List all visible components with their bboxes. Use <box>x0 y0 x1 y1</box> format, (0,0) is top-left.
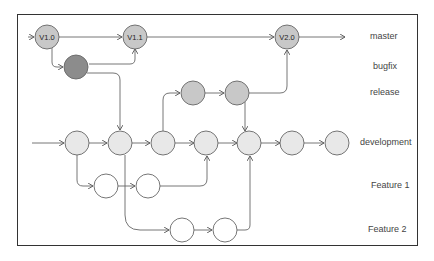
nodes <box>35 25 349 242</box>
commit-node-b1[interactable] <box>64 55 88 79</box>
branch-label-bugfix: bugfix <box>373 61 397 71</box>
branch-label-feature2: Feature 2 <box>368 224 407 234</box>
branch-label-master: master <box>370 31 398 41</box>
commit-node-d3[interactable] <box>151 131 175 155</box>
commit-node-d5[interactable] <box>237 131 261 155</box>
commit-node-d4[interactable] <box>194 131 218 155</box>
node-label-v2-0: V2.0 <box>279 33 294 42</box>
node-label-v1-1: V1.1 <box>127 33 142 42</box>
branch-label-development: development <box>360 137 412 147</box>
commit-node-d7[interactable] <box>325 131 349 155</box>
commit-node-r1[interactable] <box>181 81 205 105</box>
commit-node-f2a[interactable] <box>170 218 194 242</box>
commit-node-r2[interactable] <box>225 81 249 105</box>
commit-node-d1[interactable] <box>65 131 89 155</box>
node-label-v1-0: V1.0 <box>39 33 54 42</box>
commit-node-d6[interactable] <box>280 131 304 155</box>
branch-label-release: release <box>370 87 400 97</box>
branch-label-feature1: Feature 1 <box>371 180 410 190</box>
commit-node-f1b[interactable] <box>136 174 160 198</box>
commit-node-f1a[interactable] <box>94 174 118 198</box>
commit-node-d2[interactable] <box>108 131 132 155</box>
commit-node-f2b[interactable] <box>213 218 237 242</box>
git-flow-diagram: V1.0 V1.1 V2.0 <box>0 0 434 261</box>
